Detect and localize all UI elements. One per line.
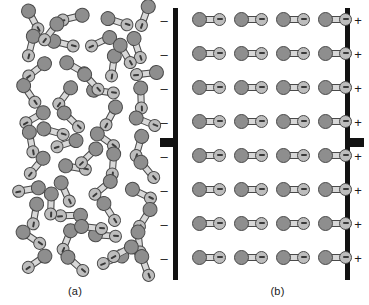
dipole-minus-sign-icon	[217, 188, 223, 190]
dipole-aligned	[318, 216, 352, 231]
dipole-negative-lobe	[318, 114, 333, 129]
dipole-minus-sign-icon	[113, 235, 119, 237]
dipole-negative-lobe	[234, 12, 249, 27]
dipole-aligned	[318, 46, 352, 61]
dipole-negative-lobe	[276, 46, 291, 61]
figure-container: (a) –––––––– (b) ++++++++	[0, 0, 369, 305]
dipole-minus-sign-icon	[259, 222, 265, 224]
dipole-minus-sign-icon	[259, 154, 265, 156]
dipole-aligned	[192, 148, 226, 163]
dipole-minus-sign-icon	[259, 86, 265, 88]
dipole-minus-sign-icon	[259, 52, 265, 54]
dipole-negative-lobe	[318, 12, 333, 27]
dipole-minus-sign-icon	[217, 256, 223, 258]
dipole-minus-sign-icon	[217, 222, 223, 224]
dipole-aligned	[234, 216, 268, 231]
dipole-negative-lobe	[276, 250, 291, 265]
panel-a-random-orientation	[0, 0, 150, 285]
dipole-aligned	[276, 12, 310, 27]
dipole-minus-sign-icon	[217, 154, 223, 156]
dipole-negative-lobe	[318, 182, 333, 197]
dipole-aligned	[192, 182, 226, 197]
dipole-negative-lobe	[234, 114, 249, 129]
dipole-minus-sign-icon	[343, 86, 349, 88]
dipole-aligned	[276, 182, 310, 197]
dipole-minus-sign-icon	[217, 120, 223, 122]
dipole-aligned	[234, 114, 268, 129]
negative-charge-symbol: –	[158, 218, 170, 231]
dipole-minus-sign-icon	[301, 154, 307, 156]
dipole-aligned	[192, 46, 226, 61]
dipole-aligned	[192, 80, 226, 95]
dipole-aligned	[192, 216, 226, 231]
dipole-minus-sign-icon	[217, 86, 223, 88]
positive-charge-symbol: +	[352, 184, 364, 197]
dipole-negative-lobe	[276, 114, 291, 129]
dipole-aligned	[234, 182, 268, 197]
dipole-negative-lobe	[318, 148, 333, 163]
dipole-negative-lobe	[276, 148, 291, 163]
dipole-negative-lobe	[192, 12, 207, 27]
dipole-negative-lobe	[318, 80, 333, 95]
dipole-negative-lobe	[148, 64, 164, 80]
negative-charge-symbol: –	[158, 184, 170, 197]
dipole-random	[57, 247, 92, 281]
dipole-minus-sign-icon	[57, 216, 63, 218]
dipole-random	[73, 218, 108, 236]
dipole-negative-lobe	[234, 250, 249, 265]
positive-charge-symbol: +	[352, 82, 364, 95]
negative-charge-symbol: –	[158, 82, 170, 95]
dipole-negative-lobe	[276, 182, 291, 197]
dipole-aligned	[318, 182, 352, 197]
dipole-aligned	[192, 114, 226, 129]
dipole-negative-lobe	[318, 46, 333, 61]
dipole-negative-lobe	[234, 148, 249, 163]
dipole-minus-sign-icon	[50, 211, 52, 217]
dipole-aligned	[276, 46, 310, 61]
dipole-minus-sign-icon	[301, 222, 307, 224]
dipole-negative-lobe	[44, 186, 60, 202]
dipole-aligned	[318, 12, 352, 27]
dipole-minus-sign-icon	[301, 86, 307, 88]
dipole-negative-lobe	[192, 114, 207, 129]
dipole-negative-lobe	[192, 182, 207, 197]
dipole-negative-lobe	[276, 216, 291, 231]
dipole-negative-lobe	[276, 12, 291, 27]
dipole-minus-sign-icon	[343, 52, 349, 54]
dipole-negative-lobe	[318, 250, 333, 265]
dipole-random	[43, 186, 59, 221]
dipole-minus-sign-icon	[301, 52, 307, 54]
dipole-minus-sign-icon	[343, 256, 349, 258]
positive-charge-symbol: +	[352, 48, 364, 61]
dipole-minus-sign-icon	[259, 256, 265, 258]
dipole-aligned	[192, 12, 226, 27]
dipole-aligned	[318, 148, 352, 163]
positive-charge-symbol: +	[352, 218, 364, 231]
positive-charge-symbol: +	[352, 150, 364, 163]
dipole-negative-lobe	[276, 80, 291, 95]
dipole-minus-sign-icon	[259, 120, 265, 122]
dipole-minus-sign-icon	[217, 52, 223, 54]
dipole-aligned	[276, 80, 310, 95]
dipole-negative-lobe	[234, 216, 249, 231]
dipole-aligned	[276, 148, 310, 163]
dipole-minus-sign-icon	[343, 222, 349, 224]
negative-charge-symbol: –	[158, 252, 170, 265]
dipole-minus-sign-icon	[301, 120, 307, 122]
dipole-negative-lobe	[192, 148, 207, 163]
dipole-minus-sign-icon	[141, 105, 143, 111]
dipole-aligned	[234, 80, 268, 95]
dipole-negative-lobe	[234, 80, 249, 95]
dipole-negative-lobe	[106, 146, 122, 162]
negative-charge-symbol: –	[158, 14, 170, 27]
dipole-negative-lobe	[99, 9, 118, 28]
dipole-negative-lobe	[73, 218, 89, 234]
dipole-aligned	[234, 12, 268, 27]
dipole-negative-lobe	[192, 250, 207, 265]
dipole-aligned	[318, 250, 352, 265]
dipole-minus-sign-icon	[343, 120, 349, 122]
dipole-minus-sign-icon	[259, 188, 265, 190]
dipole-aligned	[276, 114, 310, 129]
panel-a-caption: (a)	[0, 285, 150, 297]
dipole-minus-sign-icon	[259, 18, 265, 20]
